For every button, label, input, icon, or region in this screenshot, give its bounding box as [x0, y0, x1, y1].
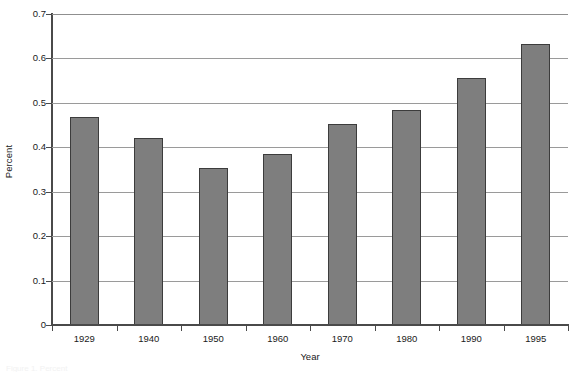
y-axis-tick-label: 0.7: [16, 9, 46, 19]
bar: [521, 44, 550, 325]
y-axis-tick-label: 0: [16, 320, 46, 330]
bar-chart-figure: Percent 00.10.20.30.40.50.60.7 Year 1929…: [0, 0, 577, 372]
y-axis-tick-label: 0.1: [16, 276, 46, 286]
bar: [199, 168, 228, 325]
x-axis-tick-label: 1960: [248, 333, 308, 344]
x-axis-tick-label: 1995: [506, 333, 566, 344]
plot-area: [52, 14, 568, 325]
bar: [134, 138, 163, 325]
x-axis-tick-mark: [52, 325, 53, 331]
x-axis-tick-label: 1980: [377, 333, 437, 344]
y-axis-tick-label: 0.5: [16, 98, 46, 108]
bar: [328, 124, 357, 325]
x-axis-tick-mark: [568, 325, 569, 331]
bar: [457, 78, 486, 325]
x-axis-tick-mark: [117, 325, 118, 331]
y-axis-tick-label: 0.6: [16, 54, 46, 64]
figure-caption: Figure 1. Percent: [6, 364, 574, 372]
x-axis-tick-label: 1990: [441, 333, 501, 344]
x-axis-tick-mark: [504, 325, 505, 331]
x-axis-tick-mark: [310, 325, 311, 331]
y-axis-tick-label: 0.3: [16, 187, 46, 197]
x-axis-tick-mark: [375, 325, 376, 331]
x-axis-tick-mark: [439, 325, 440, 331]
x-axis-tick-label: 1970: [312, 333, 372, 344]
y-axis-tick-label: 0.4: [16, 143, 46, 153]
y-axis-tick-labels: 00.10.20.30.40.50.60.7: [12, 0, 46, 372]
x-axis-title: Year: [52, 351, 568, 362]
bar: [392, 110, 421, 325]
x-axis-tick-mark: [181, 325, 182, 331]
x-axis-tick-label: 1929: [54, 333, 114, 344]
x-axis-tick-mark: [246, 325, 247, 331]
bar-series: [52, 14, 568, 325]
x-axis-tick-label: 1940: [119, 333, 179, 344]
y-axis-tick-label: 0.2: [16, 231, 46, 241]
bar: [70, 117, 99, 325]
bar: [263, 154, 292, 325]
x-axis-tick-label: 1950: [183, 333, 243, 344]
